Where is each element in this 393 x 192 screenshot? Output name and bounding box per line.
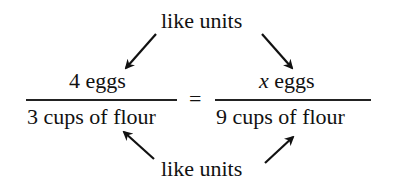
arrow-bottom-left-icon [124, 132, 154, 159]
arrows [0, 0, 393, 192]
arrow-top-left-icon [126, 34, 156, 68]
arrow-top-right-icon [262, 34, 292, 68]
arrow-bottom-right-icon [265, 137, 293, 163]
